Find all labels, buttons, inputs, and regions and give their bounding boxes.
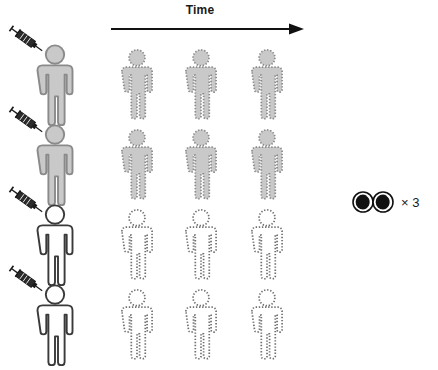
baseline-person-row-3 xyxy=(26,204,84,286)
right-arrow-icon xyxy=(110,22,306,36)
timepoint-person-r3-t3 xyxy=(242,208,292,280)
timepoint-person-r3-t2 xyxy=(176,208,226,280)
baseline-person-row-2 xyxy=(26,124,84,206)
timepoint-person-r4-t2 xyxy=(176,288,226,360)
timepoint-person-r1-t1 xyxy=(112,48,162,120)
diagram-canvas: Time xyxy=(0,0,438,370)
timepoint-person-r1-t3 xyxy=(242,48,292,120)
observation-repeat-label: × 3 xyxy=(401,196,419,209)
timepoint-person-r1-t2 xyxy=(176,48,226,120)
time-arrow xyxy=(110,22,306,36)
observation-group: × 3 xyxy=(352,190,419,214)
timepoint-person-r2-t1 xyxy=(112,128,162,200)
timepoint-person-r2-t3 xyxy=(242,128,292,200)
timepoint-person-r4-t1 xyxy=(112,288,162,360)
time-axis-label: Time xyxy=(150,3,250,17)
eyes-icon xyxy=(352,190,394,214)
timepoint-person-r2-t2 xyxy=(176,128,226,200)
baseline-person-row-4 xyxy=(26,284,84,366)
timepoint-person-r4-t3 xyxy=(242,288,292,360)
baseline-person-row-1 xyxy=(26,44,84,126)
timepoint-person-r3-t1 xyxy=(112,208,162,280)
